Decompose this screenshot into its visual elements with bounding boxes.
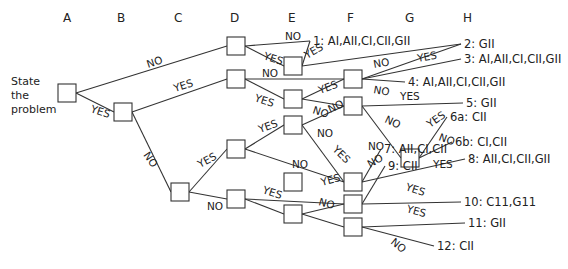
node-box-icon — [344, 173, 362, 191]
column-header-c: C — [174, 11, 182, 25]
edge-label-yes: YES — [260, 183, 284, 201]
outcome-6a: 6a: CII — [450, 110, 487, 124]
outcome-3: 3: AI,AII,CI,CII,GII — [464, 52, 561, 66]
edge-f5-o11 — [362, 223, 465, 227]
decision-node-c — [171, 183, 189, 201]
edge-label-no: NO — [285, 30, 301, 42]
node-box-icon — [284, 57, 302, 75]
edge-label-yes: YES — [423, 108, 447, 130]
node-box-icon — [284, 90, 302, 108]
decision-node-d2 — [227, 70, 245, 88]
edge-label-no: NO — [145, 54, 164, 70]
edge-f1-o4 — [362, 79, 405, 82]
edge-label-yes: YES — [256, 117, 280, 135]
decision-node-f3 — [344, 173, 362, 191]
decision-node-b — [114, 103, 132, 121]
outcome-8: 8: AII,CI,CII,GII — [468, 152, 550, 166]
column-header-g: G — [405, 11, 414, 25]
edge-label-yes: YES — [399, 90, 420, 102]
decision-node-d4 — [227, 190, 245, 208]
node-box-icon — [171, 183, 189, 201]
start-label-line-3: problem — [11, 103, 57, 116]
column-headers: A B C D E F G H — [63, 11, 472, 25]
outcome-1: 1: AI,AII,CI,CII,GII — [313, 34, 410, 48]
edge-label-no: NO — [317, 127, 333, 139]
edge-label-no: NO — [326, 97, 346, 115]
decision-node-a — [58, 84, 76, 102]
node-box-icon — [344, 97, 362, 115]
node-box-icon — [227, 70, 245, 88]
edge-label-no: NO — [372, 55, 390, 70]
column-header-a: A — [63, 11, 72, 25]
edge-e5-f5 — [302, 214, 344, 227]
outcome-10: 10: C11,G11 — [464, 195, 536, 209]
node-box-icon — [227, 190, 245, 208]
edge-label-no: NO — [317, 195, 336, 211]
outcome-11: 11: GII — [468, 216, 506, 230]
decision-node-e2 — [284, 90, 302, 108]
edge-label-no: NO — [292, 158, 308, 170]
edge-f4-o9 — [362, 166, 385, 204]
outcome-9: 9: CII — [388, 159, 418, 173]
outcome-4: 4: AI,AII,CI,CII,GII — [408, 75, 505, 89]
outcome-6b: 6b: CI,CII — [455, 135, 507, 149]
outcome-7: 7: AII,CI,CII — [384, 142, 447, 156]
decision-node-d3 — [227, 140, 245, 158]
edge-label-yes: YES — [405, 202, 428, 219]
edge-label-yes: YES — [330, 142, 353, 165]
edge-label-yes: YES — [415, 49, 438, 64]
edge-d4-e5 — [245, 199, 284, 214]
edge-label-no: NO — [373, 83, 391, 98]
decision-node-e5 — [284, 205, 302, 223]
node-box-icon — [227, 37, 245, 55]
edge-label-yes: YES — [432, 158, 453, 170]
decision-node-e1 — [284, 57, 302, 75]
outcome-5: 5: GII — [466, 96, 497, 110]
decision-tree-diagram: A B C D E F G H State the problem NOYESY… — [0, 0, 568, 269]
outcome-2: 2: GII — [464, 37, 495, 51]
column-header-h: H — [463, 11, 472, 25]
decision-node-e4 — [284, 173, 302, 191]
edge-label-no: NO — [262, 67, 278, 79]
edge-label-yes: YES — [403, 180, 427, 198]
edge-a-d1 — [76, 46, 227, 93]
node-box-icon — [344, 218, 362, 236]
edge-label-yes: YES — [316, 78, 340, 96]
column-header-b: B — [117, 11, 125, 25]
edge-c-d4 — [189, 192, 227, 199]
decision-node-f4 — [344, 195, 362, 213]
edge-label-yes: YES — [318, 171, 341, 188]
start-label-line-1: State — [11, 75, 40, 88]
node-box-icon — [284, 205, 302, 223]
edge-f2-o5 — [362, 103, 463, 106]
edge-label-yes: YES — [194, 150, 218, 170]
node-box-icon — [227, 140, 245, 158]
column-header-d: D — [230, 11, 239, 25]
node-box-icon — [284, 173, 302, 191]
node-box-icon — [344, 70, 362, 88]
edge-label-no: NO — [207, 200, 223, 212]
decision-node-f5 — [344, 218, 362, 236]
outcome-12: 12: CII — [437, 239, 474, 253]
column-header-f: F — [347, 11, 354, 25]
decision-node-e3 — [284, 116, 302, 134]
node-box-icon — [114, 103, 132, 121]
edge-label-no: NO — [365, 151, 385, 169]
edge-label-no: NO — [141, 149, 160, 169]
start-label: State the problem — [11, 75, 57, 116]
edge-label-no: NO — [368, 140, 384, 152]
decision-node-f1 — [344, 70, 362, 88]
decision-node-d1 — [227, 37, 245, 55]
edge-label-yes: YES — [252, 91, 276, 109]
edge-label-yes: YES — [261, 49, 285, 67]
edge-label-yes: YES — [88, 102, 112, 120]
node-box-icon — [284, 116, 302, 134]
node-box-icon — [344, 195, 362, 213]
edge-label-no: NO — [383, 113, 403, 131]
start-label-line-2: the — [11, 89, 29, 102]
decision-nodes — [58, 37, 419, 236]
decision-node-f2 — [344, 97, 362, 115]
column-header-e: E — [288, 11, 296, 25]
node-box-icon — [58, 84, 76, 102]
